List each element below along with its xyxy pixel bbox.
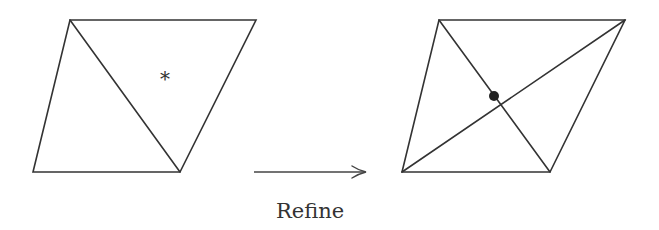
refined-diagonal-2 bbox=[402, 20, 625, 172]
refinement-diagram: * bbox=[0, 0, 659, 230]
original-diagonal bbox=[70, 20, 180, 172]
refine-target-asterisk-icon: * bbox=[160, 67, 170, 91]
refine-arrow bbox=[254, 166, 366, 178]
original-parallelogram-outline bbox=[33, 20, 256, 172]
new-vertex-dot-icon bbox=[489, 91, 499, 101]
refined-mesh bbox=[402, 20, 625, 172]
original-mesh: * bbox=[33, 20, 256, 172]
refine-label: Refine bbox=[250, 197, 370, 225]
